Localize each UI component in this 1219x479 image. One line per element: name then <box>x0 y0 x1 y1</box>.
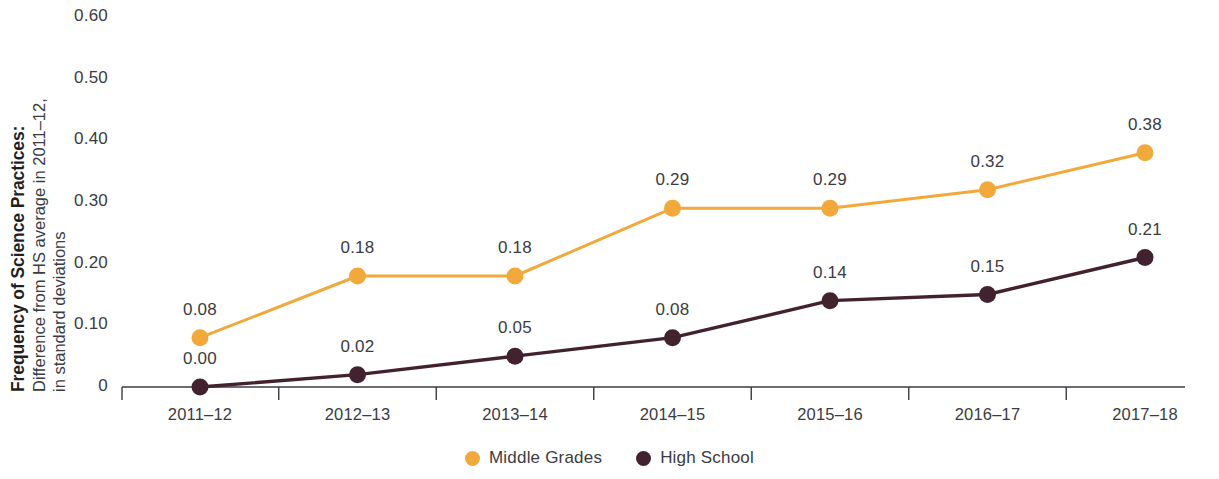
y-axis-tick-label: 0.40 <box>48 129 108 149</box>
data-point-marker[interactable] <box>507 268 524 285</box>
chart-page: Frequency of Science Practices: Differen… <box>0 0 1219 479</box>
data-point-marker[interactable] <box>1137 249 1154 266</box>
data-point-value-label: 0.02 <box>323 337 393 357</box>
data-point-value-label: 0.08 <box>165 300 235 320</box>
data-point-value-label: 0.14 <box>795 263 865 283</box>
data-point-marker[interactable] <box>664 200 681 217</box>
data-point-marker[interactable] <box>349 268 366 285</box>
data-point-marker[interactable] <box>349 366 366 383</box>
y-axis-tick-label: 0.50 <box>48 68 108 88</box>
x-axis-tick-label: 2017–18 <box>1085 405 1205 424</box>
legend-label: High School <box>660 448 754 468</box>
data-point-marker[interactable] <box>822 200 839 217</box>
x-axis-tick-label: 2013–14 <box>455 405 575 424</box>
data-point-marker[interactable] <box>822 292 839 309</box>
data-point-value-label: 0.18 <box>480 238 550 258</box>
y-axis-tick-label: 0.20 <box>48 253 108 273</box>
data-point-marker[interactable] <box>1137 144 1154 161</box>
data-point-marker[interactable] <box>192 329 209 346</box>
data-point-marker[interactable] <box>664 329 681 346</box>
series-line-high-school <box>200 258 1145 388</box>
x-axis-tick-label: 2016–17 <box>928 405 1048 424</box>
data-point-value-label: 0.15 <box>953 257 1023 277</box>
data-point-value-label: 0.21 <box>1110 220 1180 240</box>
data-point-value-label: 0.18 <box>323 238 393 258</box>
y-axis-tick-label: 0.60 <box>48 6 108 26</box>
chart-legend: Middle GradesHigh School <box>0 448 1219 468</box>
legend-item[interactable]: High School <box>636 448 754 468</box>
data-point-marker[interactable] <box>979 181 996 198</box>
y-axis-tick-label: 0.30 <box>48 191 108 211</box>
data-point-value-label: 0.32 <box>953 152 1023 172</box>
data-point-value-label: 0.00 <box>165 349 235 369</box>
legend-item[interactable]: Middle Grades <box>465 448 602 468</box>
x-axis-tick-label: 2014–15 <box>613 405 733 424</box>
x-axis-tick-label: 2011–12 <box>140 405 260 424</box>
y-axis-tick-label: 0 <box>48 376 108 396</box>
legend-label: Middle Grades <box>489 448 602 468</box>
data-point-value-label: 0.29 <box>795 170 865 190</box>
data-point-value-label: 0.29 <box>638 170 708 190</box>
data-point-value-label: 0.08 <box>638 300 708 320</box>
plot-area: 00.100.200.300.400.500.60 2011–122012–13… <box>0 0 1219 430</box>
data-point-marker[interactable] <box>979 286 996 303</box>
x-axis-tick-label: 2012–13 <box>298 405 418 424</box>
data-point-marker[interactable] <box>507 348 524 365</box>
data-point-value-label: 0.38 <box>1110 115 1180 135</box>
circle-marker-icon <box>465 451 480 466</box>
circle-marker-icon <box>636 451 651 466</box>
data-point-value-label: 0.05 <box>480 318 550 338</box>
data-point-marker[interactable] <box>192 379 209 396</box>
x-axis-tick-label: 2015–16 <box>770 405 890 424</box>
y-axis-tick-label: 0.10 <box>48 314 108 334</box>
